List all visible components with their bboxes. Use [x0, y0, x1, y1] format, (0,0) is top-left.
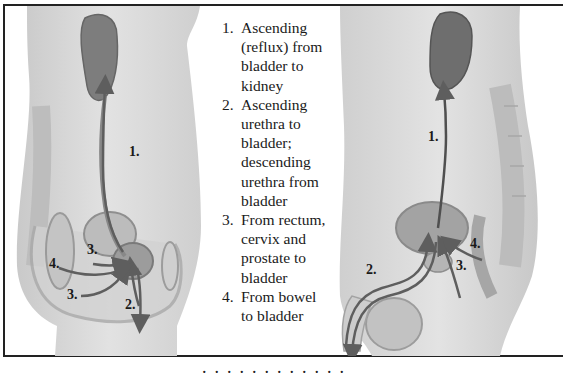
figure-frame: 1. 3. 4. 3. 2. 1. Ascending (reflux) fro…	[3, 4, 563, 357]
legend-item-2: 2. Ascending urethra to bladder; descend…	[222, 95, 332, 210]
figure-caption-cropped: · · · · · · · · · · · ·	[0, 362, 547, 377]
label-4: 4.	[49, 256, 60, 271]
label-4: 4.	[470, 236, 481, 251]
label-1: 1.	[428, 129, 439, 144]
legend: 1. Ascending (reflux) from bladder to ki…	[222, 18, 332, 325]
male-anatomy-illustration: 1. 4. 2. 3.	[332, 6, 562, 356]
label-3a: 3.	[87, 242, 98, 257]
label-2: 2.	[125, 297, 136, 312]
bladder	[396, 202, 468, 254]
label-3: 3.	[456, 258, 467, 273]
legend-item-3: 3. From rectum, cervix and prostate to b…	[222, 210, 332, 287]
female-anatomy-illustration: 1. 3. 4. 3. 2.	[5, 6, 217, 356]
label-1: 1.	[129, 144, 140, 159]
label-2: 2.	[366, 262, 377, 277]
label-3b: 3.	[67, 287, 78, 302]
legend-item-4: 4. From bowel to bladder	[222, 287, 332, 325]
legend-item-1: 1. Ascending (reflux) from bladder to ki…	[222, 18, 332, 95]
